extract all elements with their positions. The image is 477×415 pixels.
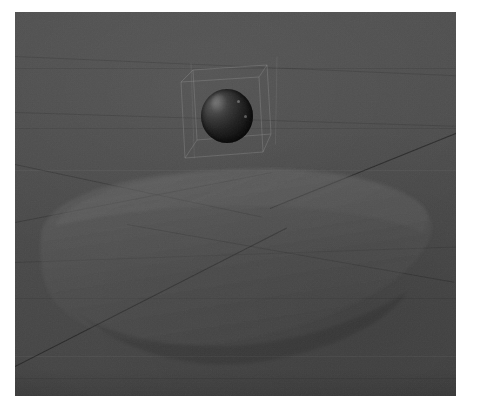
floor-far-strip: [15, 368, 456, 396]
screenshot-root: 3D viewport render: [0, 0, 477, 415]
selection-bounding-box: [15, 12, 456, 396]
sphere-glint-upper: [237, 100, 240, 103]
3d-viewport[interactable]: [15, 12, 456, 396]
sphere-specular-highlight: [211, 94, 227, 114]
sphere-glint-lower: [244, 115, 247, 118]
